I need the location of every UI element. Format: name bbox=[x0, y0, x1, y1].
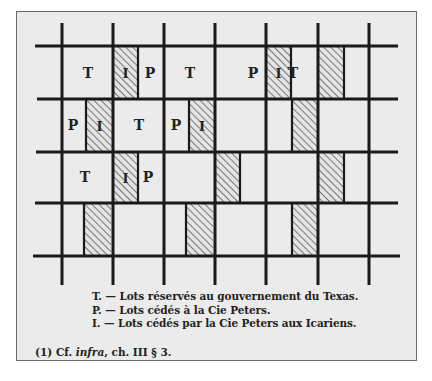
lot-label-icariens: I bbox=[275, 66, 281, 81]
lot-label: P bbox=[171, 117, 182, 133]
lot-label-icariens: I bbox=[96, 119, 102, 134]
hatched-lot bbox=[215, 152, 240, 203]
lot-label: P bbox=[248, 65, 259, 81]
legend: T. — Lots réservés au gouvernement du Te… bbox=[92, 290, 358, 331]
legend-item-icariens: I. — Lots cédés par la Cie Peters aux Ic… bbox=[92, 317, 358, 331]
lot-label: P bbox=[68, 117, 79, 133]
hatched-lot bbox=[318, 152, 344, 203]
footnote-prefix: Cf. bbox=[56, 346, 72, 358]
footnote-suffix: , ch. III § 3. bbox=[104, 346, 171, 358]
lot-label-icariens: I bbox=[199, 119, 205, 134]
legend-key: P. — bbox=[92, 304, 116, 316]
hatched-lot bbox=[186, 203, 213, 256]
lot-label-icariens: I bbox=[122, 171, 128, 186]
lot-label-icariens: I bbox=[122, 66, 128, 81]
legend-text: Lots cédés à la Cie Peters. bbox=[119, 304, 270, 316]
legend-item-peters: P. — Lots cédés à la Cie Peters. bbox=[92, 304, 358, 318]
hatched-lot bbox=[292, 203, 318, 256]
lot-label: T bbox=[83, 65, 94, 81]
footnote-italic: infra bbox=[76, 346, 104, 358]
hatched-lot bbox=[318, 46, 344, 99]
lot-label: P bbox=[143, 169, 154, 185]
lot-label: T bbox=[185, 65, 196, 81]
lot-label: T bbox=[80, 169, 91, 185]
lot-label: T bbox=[134, 117, 145, 133]
footnote-marker: (1) bbox=[35, 346, 52, 358]
legend-text: Lots réservés au gouvernement du Texas. bbox=[119, 290, 358, 302]
legend-key: I. — bbox=[92, 317, 114, 329]
lot-label: T bbox=[288, 65, 299, 81]
legend-item-texas: T. — Lots réservés au gouvernement du Te… bbox=[92, 290, 358, 304]
lot-label: P bbox=[145, 65, 156, 81]
legend-text: Lots cédés par la Cie Peters aux Icarien… bbox=[118, 317, 357, 329]
hatched-lot bbox=[292, 99, 318, 152]
legend-key: T. — bbox=[92, 290, 116, 302]
hatched-lot bbox=[84, 203, 111, 256]
footnote: (1) Cf. infra, ch. III § 3. bbox=[35, 346, 171, 358]
